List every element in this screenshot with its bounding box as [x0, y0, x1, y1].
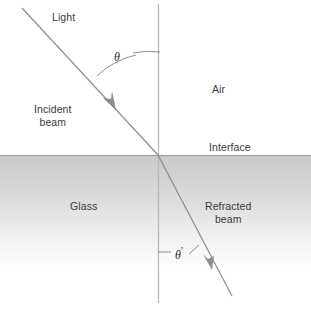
light-label: Light [52, 11, 75, 24]
glass-region [0, 155, 311, 272]
theta-prime-angle-symbol: θ′ [175, 245, 183, 263]
refraction-svg [0, 0, 311, 317]
incident-beam-label: Incident beam [34, 103, 72, 129]
prime-mark: ′ [181, 245, 183, 256]
theta-arc-segment [133, 51, 160, 53]
incident-beam-ray [22, 8, 158, 155]
refracted-beam-label: Refracted beam [205, 200, 251, 226]
incident-beam-arrowhead [103, 91, 116, 110]
interface-label: Interface [209, 141, 251, 154]
glass-label: Glass [70, 200, 97, 213]
air-label: Air [212, 83, 225, 96]
theta-angle-symbol: θ [114, 50, 120, 65]
refraction-diagram: Light Incident beam Air Interface Glass … [0, 0, 311, 317]
